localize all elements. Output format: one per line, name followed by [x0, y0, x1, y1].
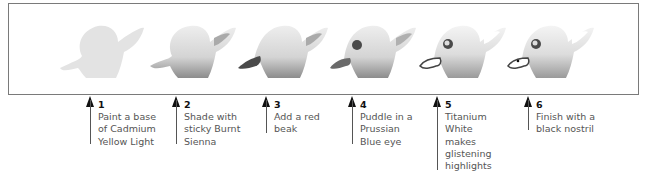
duck-stage-3-beak-image	[234, 16, 330, 86]
step-caption: Finish with a black nostril	[536, 111, 626, 136]
arrow-line	[90, 100, 91, 144]
arrow-line	[266, 100, 267, 133]
step-number: 1	[98, 99, 105, 110]
duck-stage-6-nostril-image	[502, 16, 598, 86]
step-number: 3	[274, 99, 281, 110]
duck-stage-5-highlights-image	[414, 16, 510, 86]
arrow-line	[176, 100, 177, 144]
arrow-line	[352, 100, 353, 144]
step-caption: Shade with sticky Burnt Sienna	[184, 111, 274, 148]
step-number: 2	[184, 99, 191, 110]
step-caption: Add a red beak	[274, 111, 364, 136]
step-number: 4	[360, 99, 367, 110]
duck-stage-1-base-image	[52, 16, 148, 86]
step-number: 6	[536, 99, 543, 110]
arrow-line	[437, 100, 438, 170]
step-caption: Titanium White makes glistening highligh…	[445, 111, 535, 172]
duck-stage-2-shaded-image	[144, 16, 240, 86]
step-caption: Paint a base of Cadmium Yellow Light	[98, 111, 188, 148]
step-number: 5	[445, 99, 452, 110]
duck-stage-4-eye-image	[324, 16, 420, 86]
arrow-line	[528, 100, 529, 130]
